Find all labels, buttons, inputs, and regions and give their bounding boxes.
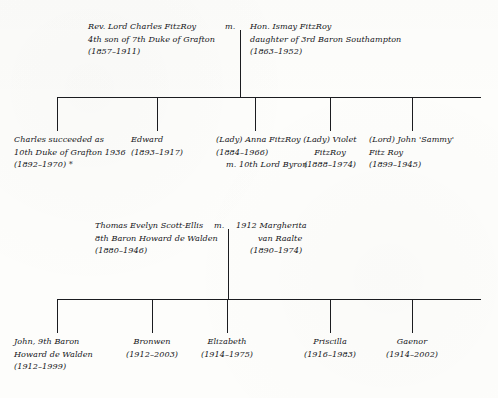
person-rev-lord-charles-fitzroy: Rev. Lord Charles FitzRoy 4th son of 7th… bbox=[88, 20, 215, 58]
person-dates: (1857–1911) bbox=[88, 45, 215, 58]
family-tree-chart: Rev. Lord Charles FitzRoy 4th son of 7th… bbox=[0, 0, 498, 398]
person-name: Charles succeeded as bbox=[14, 133, 126, 146]
drop-line-child-2 bbox=[157, 97, 158, 131]
person-dates: (1890–1974) bbox=[236, 244, 307, 257]
drop-line-child-5 bbox=[412, 97, 413, 131]
person-gaenor-scott-ellis: Gaenor (1914–2002) bbox=[386, 335, 438, 360]
person-description: 8th Baron Howard de Walden bbox=[95, 232, 218, 245]
person-lord-john-sammy-fitzroy: (Lord) John 'Sammy' Fitz Roy (1899–1945) bbox=[369, 133, 454, 171]
person-hon-ismay-fitzroy: Hon. Ismay FitzRoy daughter of 3rd Baron… bbox=[250, 20, 401, 58]
person-dates: (1914–1975) bbox=[201, 348, 253, 361]
person-lady-violet-fitzroy: (Lady) Violet FitzRoy (1888–1974) bbox=[303, 133, 356, 171]
marriage-symbol-generation1: m. bbox=[225, 20, 235, 33]
person-name: Edward bbox=[131, 133, 183, 146]
person-description: daughter of 3rd Baron Southampton bbox=[250, 33, 401, 46]
person-title: 10th Duke of Grafton 1936 bbox=[14, 146, 126, 159]
person-dates: (1892–1970) * bbox=[14, 158, 126, 171]
person-title: Howard de Walden bbox=[14, 348, 93, 361]
person-elizabeth-scott-ellis: Elizabeth (1914–1975) bbox=[201, 335, 253, 360]
person-dates: (1899–1945) bbox=[369, 158, 454, 171]
drop-line-child-9 bbox=[330, 299, 331, 333]
person-name: Thomas Evelyn Scott-Ellis bbox=[95, 219, 218, 232]
drop-line-child-1 bbox=[57, 97, 58, 131]
person-name: 1912 Margherita bbox=[236, 219, 307, 232]
person-name: Gaenor bbox=[386, 335, 438, 348]
drop-line-child-7 bbox=[152, 299, 153, 333]
person-dates: (1888–1974) bbox=[303, 158, 356, 171]
person-surname: van Raalte bbox=[236, 232, 307, 245]
person-name: John, 9th Baron bbox=[14, 335, 93, 348]
person-margherita-van-raalte: 1912 Margherita van Raalte (1890–1974) bbox=[236, 219, 307, 257]
person-surname: Fitz Roy bbox=[369, 146, 454, 159]
person-charles-10th-duke-of-grafton: Charles succeeded as 10th Duke of Grafto… bbox=[14, 133, 126, 171]
drop-line-child-10 bbox=[412, 299, 413, 333]
person-name: Bronwen bbox=[126, 335, 178, 348]
person-name: (Lord) John 'Sammy' bbox=[369, 133, 454, 146]
person-name: (Lady) Anna FitzRoy bbox=[216, 133, 307, 146]
person-bronwen-scott-ellis: Bronwen (1912–2003) bbox=[126, 335, 178, 360]
person-description: 4th son of 7th Duke of Grafton bbox=[88, 33, 215, 46]
person-dates: (1884–1966) bbox=[216, 146, 307, 159]
person-edward-fitzroy: Edward (1893–1917) bbox=[131, 133, 183, 158]
person-thomas-evelyn-scott-ellis: Thomas Evelyn Scott-Ellis 8th Baron Howa… bbox=[95, 219, 218, 257]
person-dates: (1916–1983) bbox=[304, 348, 356, 361]
person-priscilla-scott-ellis: Priscilla (1916–1983) bbox=[304, 335, 356, 360]
drop-line-child-6 bbox=[57, 299, 58, 333]
drop-line-child-3 bbox=[255, 97, 256, 131]
drop-line-child-4 bbox=[330, 97, 331, 131]
drop-line-child-8 bbox=[227, 299, 228, 333]
person-surname: FitzRoy bbox=[303, 146, 356, 159]
person-dates: (1914–2002) bbox=[386, 348, 438, 361]
person-name: Hon. Ismay FitzRoy bbox=[250, 20, 401, 33]
marriage-symbol-generation3: m. bbox=[214, 219, 224, 232]
person-name: Rev. Lord Charles FitzRoy bbox=[88, 20, 215, 33]
person-lady-anna-fitzroy: (Lady) Anna FitzRoy (1884–1966) m. 10th … bbox=[216, 133, 307, 171]
person-dates: (1880–1946) bbox=[95, 244, 218, 257]
sibling-bar-generation2 bbox=[57, 97, 481, 98]
person-marriage-note: m. 10th Lord Byron bbox=[216, 158, 307, 171]
marriage-line-generation1 bbox=[240, 30, 241, 98]
person-dates: (1893–1917) bbox=[131, 146, 183, 159]
person-dates: (1912–1999) bbox=[14, 360, 93, 373]
sibling-bar-generation4 bbox=[57, 299, 481, 300]
marriage-line-generation3 bbox=[228, 229, 229, 300]
person-name: Priscilla bbox=[304, 335, 356, 348]
person-name: (Lady) Violet bbox=[303, 133, 356, 146]
person-name: Elizabeth bbox=[201, 335, 253, 348]
person-john-9th-baron-howard-de-walden: John, 9th Baron Howard de Walden (1912–1… bbox=[14, 335, 93, 373]
person-dates: (1912–2003) bbox=[126, 348, 178, 361]
person-dates: (1863–1952) bbox=[250, 45, 401, 58]
